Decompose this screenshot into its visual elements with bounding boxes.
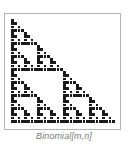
figure-caption: Binomial[m,n]: [0, 131, 128, 141]
plot-frame: [4, 13, 121, 130]
sierpinski-triangle-plot: [11, 19, 115, 123]
